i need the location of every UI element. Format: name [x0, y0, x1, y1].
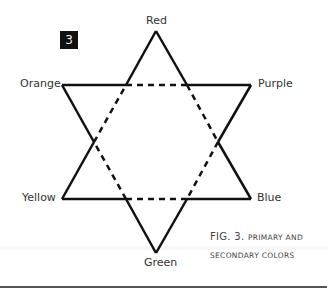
label-red: Red	[146, 14, 167, 27]
color-star-diagram: 3 Red Orange Purple Yellow Blue Green FI…	[0, 0, 327, 289]
label-green: Green	[144, 256, 177, 269]
caption-line-1: PRIMARY AND	[248, 233, 303, 242]
label-blue: Blue	[257, 191, 281, 204]
caption-prefix: FIG. 3.	[210, 231, 244, 242]
caption-line-2: SECONDARY COLORS	[210, 247, 303, 265]
figure-caption: FIG. 3. PRIMARY AND SECONDARY COLORS	[210, 228, 303, 265]
bottom-rule	[0, 286, 327, 288]
label-orange: Orange	[20, 77, 61, 90]
label-purple: Purple	[258, 77, 293, 90]
label-yellow: Yellow	[22, 191, 56, 204]
figure-number-badge: 3	[60, 31, 78, 49]
